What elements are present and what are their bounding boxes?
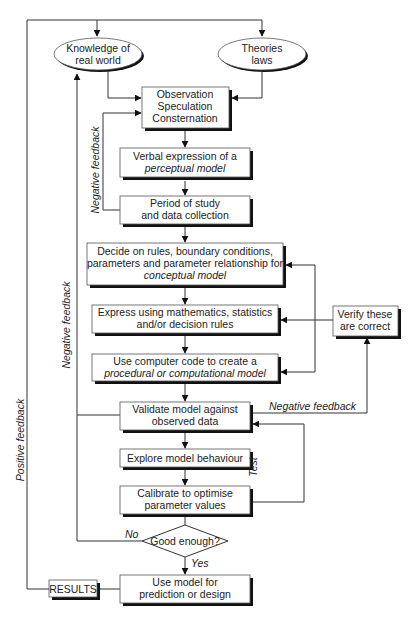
node-period: Period of study and data collection [120, 196, 253, 227]
decide-line-3: conceptual model [144, 269, 227, 281]
inner-negative-feedback-label: Negative feedback [89, 126, 101, 214]
node-explore: Explore model behaviour [120, 449, 253, 470]
verbal-line-1: Verbal expression of a [133, 150, 237, 162]
use-line-1: Use model for [152, 576, 218, 588]
test-label: Test [247, 456, 259, 477]
calibrate-line-1: Calibrate to optimise [137, 487, 233, 499]
node-use: Use model for prediction or design [120, 575, 253, 606]
knowledge-line-1: Knowledge of [66, 42, 130, 54]
outer-negative-feedback-label: Negative feedback [60, 281, 72, 369]
express-line-2: and/or decision rules [137, 318, 234, 330]
period-line-1: Period of study [150, 197, 221, 209]
express-line-1: Express using mathematics, statistics [98, 306, 272, 318]
validate-line-2: observed data [152, 415, 219, 427]
knowledge-line-2: real world [75, 54, 121, 66]
validate-line-1: Validate model against [132, 403, 238, 415]
yes-label: Yes [191, 557, 209, 569]
node-code: Use computer code to create a procedural… [92, 354, 281, 384]
node-verify: Verify these are correct [333, 306, 401, 339]
explore-line-1: Explore model behaviour [127, 452, 244, 464]
no-label: No [125, 528, 139, 540]
observation-line-2: Speculation [158, 100, 213, 112]
results-label: RESULTS [49, 583, 97, 595]
verbal-line-2: perceptual model [144, 162, 226, 174]
decision-label: Good enough? [150, 535, 220, 547]
positive-feedback-label: Positive feedback [14, 398, 26, 481]
node-observation: Observation Speculation Consternation [142, 87, 232, 131]
node-knowledge: Knowledge of real world [54, 38, 144, 72]
node-results: RESULTS [49, 580, 100, 600]
verify-line-2: are correct [340, 320, 390, 332]
node-theories: Theories laws [218, 38, 308, 72]
validate-negative-feedback-label: Negative feedback [269, 400, 357, 412]
code-line-2: procedural or computational model [103, 367, 266, 379]
use-line-2: prediction or design [139, 588, 231, 600]
decide-line-2: parameters and parameter relationship fo… [87, 257, 284, 269]
node-calibrate: Calibrate to optimise parameter values [120, 486, 253, 517]
observation-line-3: Consternation [152, 112, 218, 124]
node-express: Express using mathematics, statistics an… [92, 305, 281, 336]
calibrate-line-2: parameter values [144, 499, 225, 511]
test-loop-line [253, 424, 304, 502]
node-decision: Good enough? [142, 525, 228, 557]
node-validate: Validate model against observed data [120, 402, 253, 433]
node-verbal: Verbal expression of a perceptual model [120, 148, 253, 180]
theories-line-1: Theories [242, 42, 283, 54]
arrow-theories-to-observation [232, 72, 262, 98]
verify-line-1: Verify these [338, 308, 393, 320]
decide-line-1: Decide on rules, boundary conditions, [97, 245, 273, 257]
arrow-knowledge-to-observation [108, 72, 141, 98]
code-line-1: Use computer code to create a [113, 355, 257, 367]
observation-line-1: Observation [157, 88, 214, 100]
period-line-2: and data collection [141, 209, 229, 221]
theories-line-2: laws [251, 54, 272, 66]
modelling-flowchart: Knowledge of real world Theories laws Ob… [0, 0, 415, 624]
node-decide: Decide on rules, boundary conditions, pa… [87, 243, 286, 288]
